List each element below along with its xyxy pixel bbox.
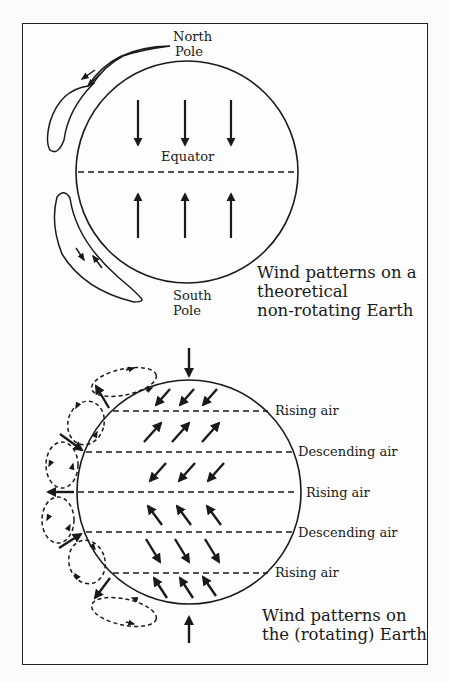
latitude-label-2: Descending air [298, 444, 398, 459]
south-pole-label-line1: South [173, 288, 212, 303]
rotating-earth [42, 348, 301, 643]
band-6-arrows [154, 577, 216, 598]
latitude-label-4: Descending air [298, 525, 398, 540]
south-up-arrows [138, 194, 231, 238]
band-1-arrows [156, 389, 217, 405]
top-caption-line1: Wind patterns on a [257, 263, 417, 282]
south-pole-label: South Pole [173, 288, 212, 318]
north-circulation-cell [48, 46, 171, 152]
north-pole-label: North Pole [173, 29, 212, 59]
wind-pattern-diagram [0, 0, 449, 682]
south-pole-label-line2: Pole [173, 303, 212, 318]
north-pole-label-line2: Pole [173, 44, 212, 59]
top-caption-line3: non-rotating Earth [257, 301, 417, 320]
band-5-arrows [146, 539, 219, 562]
latitude-label-3: Rising air [306, 485, 370, 500]
band-3-arrows [150, 463, 224, 481]
top-caption: Wind patterns on a theoretical non-rotat… [257, 263, 417, 320]
latitude-label-5: Rising air [275, 565, 339, 580]
north-pole-label-line1: North [173, 29, 212, 44]
bottom-caption-line2: the (rotating) Earth [262, 625, 427, 644]
north-down-arrows [138, 100, 231, 145]
equator-label: Equator [161, 149, 214, 164]
bottom-caption-line1: Wind patterns on [262, 606, 427, 625]
latitude-lines [78, 411, 298, 573]
bottom-caption: Wind patterns on the (rotating) Earth [262, 606, 427, 644]
cell-arrowheads [47, 368, 152, 624]
top-caption-line2: theoretical [257, 282, 417, 301]
band-4-arrows [148, 506, 221, 525]
latitude-label-1: Rising air [275, 403, 339, 418]
south-circulation-cell [54, 193, 142, 302]
band-2-arrows [144, 423, 219, 442]
